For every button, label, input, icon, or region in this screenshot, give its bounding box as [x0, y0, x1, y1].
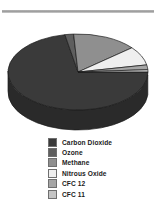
pie-chart-svg: [0, 16, 156, 136]
legend-label-carbon-dioxide: Carbon Dioxide: [62, 138, 112, 147]
legend-swatch-ozone: [48, 148, 57, 157]
legend-item-cfc-12: CFC 12: [48, 179, 156, 189]
legend-item-cfc-11: CFC 11: [48, 189, 156, 199]
legend-item-ozone: Ozone: [48, 147, 156, 157]
legend-label-cfc-12: CFC 12: [62, 179, 85, 188]
legend-swatch-cfc-11: [48, 190, 57, 199]
top-divider-rule: [2, 10, 154, 13]
legend-label-methane: Methane: [62, 158, 89, 167]
legend-label-ozone: Ozone: [62, 148, 83, 157]
legend-swatch-methane: [48, 158, 57, 167]
chart-legend: Carbon Dioxide Ozone Methane Nitrous Oxi…: [48, 137, 156, 199]
legend-swatch-carbon-dioxide: [48, 138, 57, 147]
legend-swatch-nitrous-oxide: [48, 169, 57, 178]
pie-slices: [8, 34, 148, 110]
legend-label-cfc-11: CFC 11: [62, 190, 85, 199]
legend-item-methane: Methane: [48, 158, 156, 168]
legend-item-nitrous-oxide: Nitrous Oxide: [48, 168, 156, 178]
legend-label-nitrous-oxide: Nitrous Oxide: [62, 169, 107, 178]
legend-swatch-cfc-12: [48, 179, 57, 188]
legend-item-carbon-dioxide: Carbon Dioxide: [48, 137, 156, 147]
pie-chart-figure: Carbon Dioxide Ozone Methane Nitrous Oxi…: [0, 0, 156, 204]
pie-chart-plot-area: [0, 16, 156, 136]
